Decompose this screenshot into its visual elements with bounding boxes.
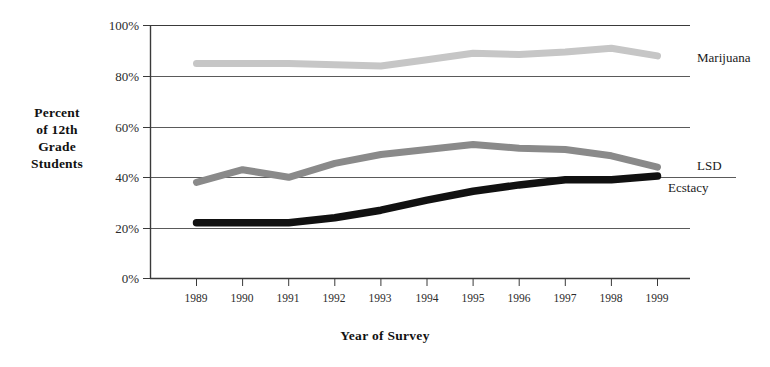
x-tick-label-1998: 1998: [588, 292, 634, 304]
x-tick-label-1997: 1997: [542, 292, 588, 304]
x-tick-label-1999: 1999: [634, 292, 680, 304]
series-label-marijuana: Marijuana: [697, 51, 750, 65]
x-tick-label-1989: 1989: [173, 292, 219, 304]
series-label-ecstacy: Ecstacy: [668, 181, 708, 195]
x-tick-label-1992: 1992: [311, 292, 357, 304]
drug-use-line-chart: Percent of 12th Grade Students 100% 80% …: [0, 0, 770, 367]
x-tick-marks: [197, 279, 658, 287]
plot-area: [0, 0, 770, 367]
x-tick-label-1993: 1993: [357, 292, 403, 304]
x-axis-title: Year of Survey: [0, 328, 770, 344]
x-tick-label-1994: 1994: [404, 292, 450, 304]
series-line-ecstacy: [197, 176, 658, 223]
x-tick-label-1996: 1996: [496, 292, 542, 304]
series-label-lsd: LSD: [697, 159, 722, 173]
x-tick-label-1995: 1995: [450, 292, 496, 304]
series-line-marijuana: [197, 48, 658, 66]
x-tick-label-1991: 1991: [265, 292, 311, 304]
x-tick-label-1990: 1990: [219, 292, 265, 304]
